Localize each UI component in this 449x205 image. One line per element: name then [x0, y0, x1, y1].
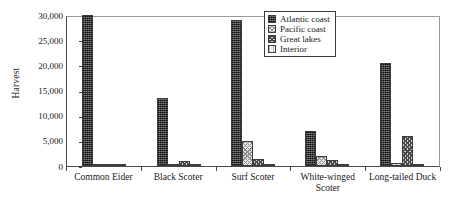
bar-groups [67, 17, 439, 166]
legend-item: Atlantic coast [268, 14, 330, 24]
bar [413, 164, 424, 166]
bar [242, 141, 253, 166]
legend-item-label: Atlantic coast [280, 14, 330, 24]
bar-group-bars [67, 17, 141, 166]
legend-item: Great lakes [268, 34, 330, 44]
bar [253, 159, 264, 166]
bar [338, 164, 349, 166]
legend-item: Pacific coast [268, 24, 330, 34]
y-axis-tick-labels: 05,00010,00015,00020,00025,00030,000 [16, 0, 63, 205]
y-axis-tick-label: 0 [16, 163, 63, 172]
bar [190, 164, 201, 166]
y-axis-tick-label: 25,000 [16, 37, 63, 46]
x-axis-tick-labels: Common EiderBlack ScoterSurf ScoterWhite… [66, 172, 440, 194]
y-axis-tick-label: 15,000 [16, 87, 63, 96]
bar [380, 63, 391, 166]
bar [391, 163, 402, 166]
x-axis-tick-mark [290, 167, 291, 171]
legend-swatch-icon [268, 25, 276, 33]
x-axis-tick-mark [440, 167, 441, 171]
bar-group [365, 17, 439, 166]
x-axis-tick-mark [66, 167, 67, 171]
bar [82, 15, 93, 166]
x-axis-tick-label: White-winged Scoter [290, 172, 365, 194]
x-axis-tick-mark [141, 167, 142, 171]
legend-swatch-icon [268, 15, 276, 23]
legend-item-label: Pacific coast [280, 24, 326, 34]
bar [305, 131, 316, 166]
bar-group [67, 17, 141, 166]
bar-group-bars [141, 17, 215, 166]
bar [157, 98, 168, 166]
bar [104, 164, 115, 166]
y-axis-tick-mark [79, 167, 82, 168]
x-axis-tick-mark [216, 167, 217, 171]
x-axis-tick-label: Black Scoter [141, 172, 216, 194]
y-axis-tick-label: 5,000 [16, 137, 63, 146]
bar [93, 164, 104, 166]
legend-item-label: Great lakes [280, 34, 321, 44]
bar [179, 161, 190, 166]
y-axis-tick-label: 30,000 [16, 12, 63, 21]
y-axis-tick-label: 20,000 [16, 62, 63, 71]
legend-item-label: Interior [280, 44, 307, 54]
y-axis-tick-label: 10,000 [16, 112, 63, 121]
bar [115, 164, 126, 166]
harvest-bar-chart: Harvest 05,00010,00015,00020,00025,00030… [0, 0, 449, 205]
bar [402, 136, 413, 166]
legend-item: Interior [268, 44, 330, 54]
bar [264, 164, 275, 166]
bar [168, 164, 179, 166]
bar [231, 20, 242, 166]
x-axis-tick-label: Common Eider [66, 172, 141, 194]
plot-area [66, 16, 440, 167]
chart-legend: Atlantic coastPacific coastGreat lakesIn… [264, 11, 336, 57]
bar-group [141, 17, 215, 166]
bar [327, 160, 338, 166]
x-axis-tick-mark [365, 167, 366, 171]
x-axis-tick-label: Surf Scoter [216, 172, 291, 194]
bar [316, 156, 327, 166]
legend-swatch-icon [268, 35, 276, 43]
legend-swatch-icon [268, 45, 276, 53]
bar-group-bars [365, 17, 439, 166]
x-axis-tick-label: Long-tailed Duck [365, 172, 440, 194]
